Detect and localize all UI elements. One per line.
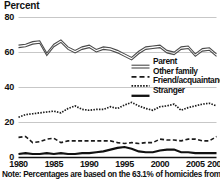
series-line-friend-acquaintance [19,102,217,117]
x-axis-tick: 2000 [147,159,173,169]
series-line-stranger [19,147,217,154]
chart-note: Note: Percentages are based on the 63.1%… [2,170,220,179]
x-axis-tick: 1995 [112,159,138,169]
y-axis-tick: 80 [0,12,14,22]
x-axis-tick: 1990 [76,159,102,169]
x-axis-tick: 2008 [204,159,221,169]
legend-swatch-icon [131,57,150,66]
legend-swatch-icon [131,76,150,85]
x-axis-tick: 1980 [6,159,32,169]
legend-item-stranger[interactable]: Stranger [131,86,220,96]
y-axis-tick: 40 [0,82,14,92]
y-axis-tick: 20 [0,117,14,127]
y-axis-tick: 60 [0,47,14,57]
chart-legend: ParentOther familyFriend/acquaintanceStr… [131,57,220,95]
legend-label: Stranger [153,86,185,95]
legend-label: Parent [153,57,177,66]
legend-swatch-icon [131,86,150,95]
homicide-relationship-line-chart: Percent 020406080 1980198519901995200020… [0,0,220,182]
x-axis-tick: 1985 [41,159,67,169]
series-line-other-family [19,137,217,144]
legend-swatch-icon [131,67,150,76]
